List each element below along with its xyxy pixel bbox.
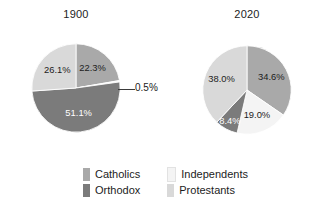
left-pie-chart: 22.3%51.1%26.1% [29, 41, 123, 135]
legend-label-independents: Independents [181, 168, 248, 181]
left-chart-title: 1900 [52, 8, 100, 20]
legend-swatch-icon-catholics [83, 168, 90, 181]
legend-item-orthodox[interactable]: Orthodox [83, 184, 151, 197]
legend-item-protestants[interactable]: Protestants [167, 184, 259, 197]
legend-label-orthodox: Orthodox [95, 184, 140, 197]
legend-swatch-icon-independents [167, 167, 176, 182]
legend-label-catholics: Catholics [95, 168, 140, 181]
legend-item-catholics[interactable]: Catholics [83, 167, 151, 182]
callout-leader-line [118, 89, 135, 90]
pie-slice-label-protestants: 38.0% [208, 73, 235, 84]
legend: Catholics Independents Orthodox Protesta… [83, 167, 259, 197]
right-pie-slices [203, 46, 291, 134]
right-chart-title: 2020 [223, 8, 271, 20]
legend-label-protestants: Protestants [179, 184, 235, 197]
legend-swatch-icon-orthodox [83, 184, 90, 197]
pie-slice-label-protestants: 26.1% [44, 64, 71, 75]
pie-slice-label-catholics: 34.6% [258, 71, 285, 82]
pie-slice-label-independents: 19.0% [244, 109, 271, 120]
pie-chart-figure: 1900 2020 22.3%51.1%26.1% 0.5% 34.6%19.0… [0, 0, 325, 216]
right-pie-chart: 34.6%19.0%8.4%38.0% [200, 43, 294, 137]
pie-slice-label-orthodox: 51.1% [65, 107, 92, 118]
pie-slice-label-catholics: 22.3% [79, 62, 106, 73]
left-pie-slices [32, 44, 120, 132]
callout-label-independents-1900: 0.5% [135, 82, 158, 93]
legend-item-independents[interactable]: Independents [167, 167, 259, 182]
legend-swatch-icon-protestants [167, 184, 174, 197]
pie-slice-label-orthodox: 8.4% [219, 115, 240, 126]
